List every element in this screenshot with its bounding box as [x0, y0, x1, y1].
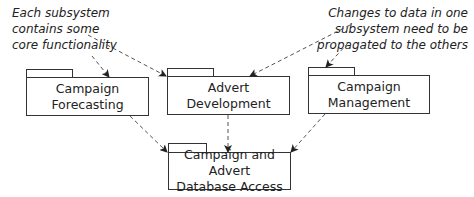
package-database-access[interactable]: Campaign and Advert Database Access: [168, 152, 291, 190]
package-label: Development: [186, 96, 270, 112]
arrow-forecasting-to-database: [130, 116, 167, 152]
package-label: Campaign and Advert: [169, 147, 290, 179]
package-label: Database Access: [176, 179, 282, 195]
package-label: Campaign: [56, 81, 120, 97]
note-line: contains some: [12, 21, 117, 37]
note-core-functionality: Each subsystem contains some core functi…: [12, 5, 117, 53]
package-campaign-forecasting[interactable]: Campaign Forecasting: [26, 77, 149, 116]
note-line: subsystem need to be: [317, 21, 468, 37]
note-data-propagation: Changes to data in one subsystem need to…: [317, 5, 468, 53]
arrow-note-to-forecasting: [92, 56, 109, 77]
package-label: Management: [328, 95, 410, 111]
note-line: Each subsystem: [12, 5, 117, 21]
package-advert-development[interactable]: Advert Development: [167, 76, 290, 115]
arrow-management-to-database: [291, 114, 325, 152]
package-label: Advert: [208, 80, 249, 96]
package-label: Forecasting: [51, 97, 123, 113]
package-label: Campaign: [337, 79, 401, 95]
note-line: Changes to data in one: [317, 5, 468, 21]
package-campaign-management[interactable]: Campaign Management: [308, 75, 430, 114]
note-line: propagated to the others: [317, 37, 468, 53]
note-line: core functionality: [12, 37, 117, 53]
